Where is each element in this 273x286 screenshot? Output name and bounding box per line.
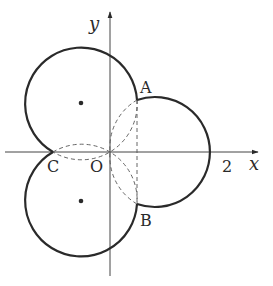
center-dot-lower [79, 199, 84, 204]
tick-label-2: 2 [222, 157, 232, 176]
diagram-canvas: y x A B C O 2 [0, 0, 273, 286]
point-label-c: C [47, 157, 59, 176]
y-axis-label: y [88, 13, 100, 34]
point-label-a: A [139, 78, 152, 97]
point-label-b: B [140, 211, 152, 230]
x-axis-label: x [249, 153, 259, 174]
origin-label: O [90, 157, 103, 176]
center-dot-upper [79, 101, 84, 106]
